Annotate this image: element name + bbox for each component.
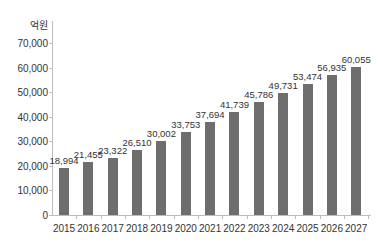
x-tick-mark bbox=[247, 215, 248, 219]
bar-2022 bbox=[229, 112, 239, 215]
bar-value-label: 41,739 bbox=[220, 99, 249, 110]
bar-2020 bbox=[181, 132, 191, 215]
x-tick-label: 2018 bbox=[126, 223, 148, 234]
bar-2025 bbox=[303, 84, 313, 215]
bar-chart: 억원 010,00020,00030,00040,00050,00060,000… bbox=[0, 0, 378, 252]
x-tick-mark bbox=[295, 215, 296, 219]
y-tick-label: 20,000 bbox=[17, 160, 48, 171]
bar-value-label: 33,753 bbox=[171, 119, 200, 130]
y-tick-label: 70,000 bbox=[17, 38, 48, 49]
x-tick-label: 2023 bbox=[248, 223, 270, 234]
y-tick-mark bbox=[49, 141, 53, 142]
x-tick-label: 2027 bbox=[345, 223, 367, 234]
x-tick-mark bbox=[149, 215, 150, 219]
bar-2027 bbox=[351, 67, 361, 215]
x-tick-mark bbox=[125, 215, 126, 219]
y-tick-label: 50,000 bbox=[17, 87, 48, 98]
bar-2017 bbox=[108, 158, 118, 215]
x-tick-label: 2020 bbox=[175, 223, 197, 234]
bar-2016 bbox=[83, 162, 93, 215]
x-tick-label: 2026 bbox=[321, 223, 343, 234]
y-axis-unit-label: 억원 bbox=[30, 17, 48, 32]
bar-value-label: 45,786 bbox=[244, 89, 273, 100]
bar-2024 bbox=[278, 93, 288, 215]
bar-value-label: 37,694 bbox=[196, 109, 225, 120]
y-tick-mark bbox=[49, 190, 53, 191]
y-tick-label: 10,000 bbox=[17, 185, 48, 196]
x-tick-mark bbox=[101, 215, 102, 219]
x-tick-label: 2015 bbox=[53, 223, 75, 234]
x-tick-mark bbox=[320, 215, 321, 219]
x-tick-label: 2019 bbox=[150, 223, 172, 234]
bar-2015 bbox=[59, 168, 69, 215]
x-tick-label: 2022 bbox=[223, 223, 245, 234]
x-tick-mark bbox=[198, 215, 199, 219]
x-tick-mark bbox=[271, 215, 272, 219]
y-tick-mark bbox=[49, 92, 53, 93]
x-tick-mark bbox=[368, 215, 369, 219]
bar-2021 bbox=[205, 122, 215, 215]
y-tick-label: 0 bbox=[42, 210, 48, 221]
y-axis-line bbox=[52, 21, 53, 216]
x-tick-mark bbox=[174, 215, 175, 219]
y-tick-label: 40,000 bbox=[17, 111, 48, 122]
bar-2019 bbox=[156, 141, 166, 215]
x-tick-label: 2024 bbox=[272, 223, 294, 234]
y-tick-mark bbox=[49, 43, 53, 44]
y-tick-mark bbox=[49, 215, 53, 216]
bar-2023 bbox=[254, 102, 264, 215]
x-tick-mark bbox=[222, 215, 223, 219]
bar-2026 bbox=[327, 75, 337, 215]
y-tick-mark bbox=[49, 117, 53, 118]
x-tick-label: 2016 bbox=[77, 223, 99, 234]
y-tick-label: 60,000 bbox=[17, 62, 48, 73]
x-tick-label: 2021 bbox=[199, 223, 221, 234]
x-tick-label: 2025 bbox=[296, 223, 318, 234]
x-tick-label: 2017 bbox=[102, 223, 124, 234]
bar-2018 bbox=[132, 150, 142, 215]
x-tick-mark bbox=[76, 215, 77, 219]
bar-value-label: 60,055 bbox=[342, 54, 371, 65]
y-tick-label: 30,000 bbox=[17, 136, 48, 147]
y-tick-mark bbox=[49, 68, 53, 69]
x-tick-mark bbox=[344, 215, 345, 219]
